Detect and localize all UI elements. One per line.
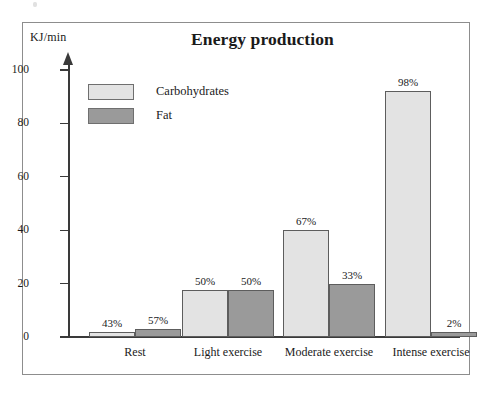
chart-title-text: Energy production	[191, 29, 334, 49]
y-axis-tick-value: 40	[0, 224, 29, 236]
y-axis-tick-label: 0	[0, 331, 69, 343]
chart-screenshot: Energy production KJ/min 100806040200 Ca…	[0, 0, 493, 394]
bar-fat-light-exercise	[228, 290, 274, 337]
y-axis-tick-label: 100	[0, 64, 69, 76]
y-axis-tick-value: 0	[0, 331, 29, 343]
legend-item-fat: Fat	[88, 106, 229, 125]
bar-value-label: 33%	[321, 270, 383, 281]
y-axis-tick-value: 60	[0, 171, 29, 183]
scan-artifact-speck	[33, 2, 37, 7]
y-axis-line	[68, 62, 70, 338]
bar-value-label: 2%	[423, 318, 485, 329]
y-axis-unit-label: KJ/min	[30, 30, 67, 45]
bar-carbohydrates-light-exercise	[182, 290, 228, 337]
bar-value-label: 98%	[377, 77, 439, 88]
legend-label-carbohydrates: Carbohydrates	[156, 85, 229, 98]
y-axis-tick-value: 20	[0, 278, 29, 290]
chart-title: Energy production	[0, 29, 493, 50]
chart-legend: Carbohydrates Fat	[88, 82, 229, 130]
legend-label-fat: Fat	[156, 109, 172, 122]
bar-value-label: 50%	[220, 276, 282, 287]
y-axis-tick-label: 60	[0, 171, 69, 183]
bar-carbohydrates-rest	[89, 332, 135, 337]
legend-swatch-carbohydrates	[88, 84, 134, 100]
y-axis-tick-value: 80	[0, 117, 29, 129]
bar-fat-intense-exercise	[431, 332, 477, 337]
y-axis-tick-label: 40	[0, 224, 69, 236]
legend-item-carbohydrates: Carbohydrates	[88, 82, 229, 101]
bar-carbohydrates-intense-exercise	[385, 91, 431, 337]
bar-value-label: 67%	[275, 216, 337, 227]
y-axis-tick-label: 20	[0, 278, 69, 290]
x-axis-category-label: Intense exercise	[355, 346, 493, 358]
bar-fat-rest	[135, 329, 181, 337]
bar-value-label: 57%	[127, 315, 189, 326]
y-axis-tick-value: 100	[0, 64, 29, 76]
legend-swatch-fat	[88, 108, 134, 124]
bar-fat-moderate-exercise	[329, 284, 375, 337]
bar-carbohydrates-moderate-exercise	[283, 230, 329, 337]
y-axis-tick-label: 80	[0, 117, 69, 129]
